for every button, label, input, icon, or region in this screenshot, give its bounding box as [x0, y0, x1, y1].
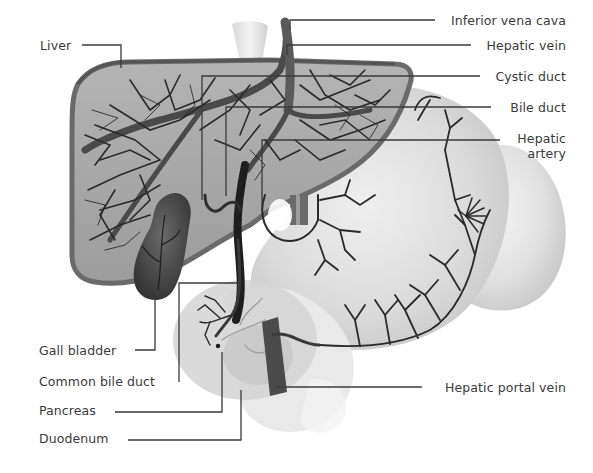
label-hepatic-portal-vein: Hepatic portal vein	[445, 380, 566, 395]
label-pancreas: Pancreas	[39, 403, 96, 418]
label-common-bile-duct: Common bile duct	[39, 374, 155, 389]
label-duodenum: Duodenum	[39, 431, 109, 446]
label-gall-bladder: Gall bladder	[39, 343, 116, 358]
label-liver: Liver	[40, 38, 71, 53]
label-hepatic-artery: Hepatic artery	[517, 131, 566, 161]
label-cystic-duct: Cystic duct	[495, 69, 566, 84]
leader-gall-bladder	[135, 300, 155, 350]
leader-inferior-vena-cava	[290, 20, 435, 30]
label-inferior-vena-cava: Inferior vena cava	[451, 13, 566, 28]
leader-duodenum	[128, 390, 241, 440]
leader-hepatic-vein	[287, 45, 471, 55]
inferior-vena-cava-stub	[232, 21, 268, 62]
label-hepatic-vein: Hepatic vein	[486, 38, 566, 53]
label-bile-duct: Bile duct	[510, 100, 566, 115]
